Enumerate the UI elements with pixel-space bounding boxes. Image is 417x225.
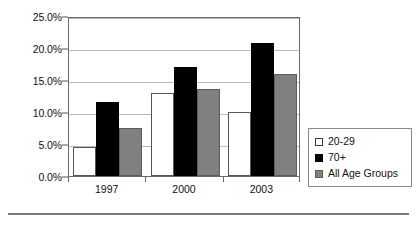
y-axis-tick-label: 0.0%	[38, 171, 62, 183]
x-axis-tick-marks	[68, 177, 300, 182]
legend-label: 20-29	[328, 136, 355, 147]
bar	[73, 147, 96, 176]
bar-series-layer	[69, 18, 299, 176]
legend-swatch-icon	[315, 154, 323, 162]
x-axis-tick-mark	[299, 177, 300, 182]
legend-swatch-icon	[315, 170, 323, 178]
y-axis-tick-label: 25.0%	[33, 11, 62, 23]
y-axis-tick-label: 20.0%	[33, 43, 62, 55]
bar	[228, 112, 251, 176]
legend-label: 70+	[328, 152, 346, 163]
bar	[96, 102, 119, 176]
bar	[119, 128, 142, 176]
chart-figure: 0.0%5.0%10.0%15.0%20.0%25.0% 19972000200…	[0, 0, 417, 225]
x-axis-tick-mark	[223, 177, 224, 182]
legend-item: All Age Groups	[315, 166, 405, 181]
bar	[151, 93, 174, 176]
bar	[174, 67, 197, 176]
y-axis-tick-label: 5.0%	[38, 139, 62, 151]
legend-item: 70+	[315, 150, 405, 165]
x-axis-tick-labels: 199720002003	[68, 183, 300, 199]
legend-label: All Age Groups	[328, 168, 398, 179]
x-axis-tick-label: 2003	[250, 183, 273, 195]
bar	[251, 43, 274, 176]
bar	[274, 74, 297, 176]
x-axis-tick-label: 2000	[172, 183, 195, 195]
x-axis-tick-mark	[68, 177, 69, 182]
x-axis-tick-mark	[145, 177, 146, 182]
legend-swatch-icon	[315, 138, 323, 146]
bottom-divider-rule	[8, 213, 409, 215]
legend-item: 20-29	[315, 134, 405, 149]
y-axis-tick-label: 15.0%	[33, 75, 62, 87]
chart-legend: 20-2970+All Age Groups	[308, 128, 412, 187]
y-axis-tick-label: 10.0%	[33, 107, 62, 119]
x-axis-tick-label: 1997	[95, 183, 118, 195]
y-axis-tick-labels: 0.0%5.0%10.0%15.0%20.0%25.0%	[8, 17, 62, 177]
bar	[197, 89, 220, 176]
plot-area	[68, 17, 300, 177]
